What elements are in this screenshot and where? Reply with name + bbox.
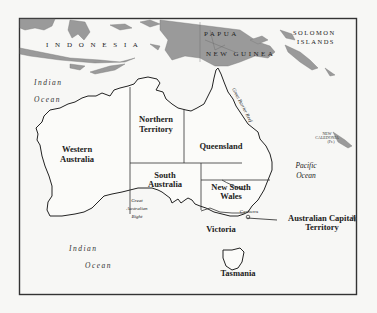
label-western-australia-2: Australia xyxy=(60,154,95,164)
label-bight-1: Great xyxy=(131,198,143,203)
label-western-australia-1: Western xyxy=(62,144,92,154)
label-northern-territory-2: Territory xyxy=(139,124,173,134)
label-new-south-wales-2: Wales xyxy=(220,191,242,201)
label-queensland: Queensland xyxy=(200,141,243,151)
label-canberra: Canberra xyxy=(240,209,259,214)
australia-map: I N D O N E S I A PAPUA NEW GUINEA SOLOM… xyxy=(0,0,377,313)
label-new-caledonia-3: (Fr.) xyxy=(328,139,336,144)
label-south-australia-2: Australia xyxy=(148,179,183,189)
label-indian-ocean-s-2: Ocean xyxy=(85,261,112,270)
label-northern-territory-1: Northern xyxy=(139,114,173,124)
label-indonesia: I N D O N E S I A xyxy=(46,41,140,49)
label-act-2: Territory xyxy=(305,222,339,232)
act-leader-line xyxy=(247,218,277,220)
label-indian-ocean-nw-1: Indian xyxy=(33,78,63,87)
label-islands: ISLANDS xyxy=(297,38,335,45)
label-papua: PAPUA xyxy=(204,30,239,38)
label-indian-ocean-nw-2: Ocean xyxy=(34,95,61,104)
label-bight-2: Australian xyxy=(125,206,148,211)
label-pacific-1: Pacific xyxy=(294,161,317,170)
tasmania-island xyxy=(223,248,244,270)
label-new-guinea: NEW GUINEA xyxy=(206,50,275,58)
label-victoria: Victoria xyxy=(206,224,236,234)
label-solomon: SOLOMON xyxy=(293,29,336,36)
label-bight-3: Bight xyxy=(132,214,143,219)
label-pacific-2: Ocean xyxy=(296,171,316,180)
label-tasmania: Tasmania xyxy=(220,268,256,278)
label-indian-ocean-s-1: Indian xyxy=(68,244,98,253)
